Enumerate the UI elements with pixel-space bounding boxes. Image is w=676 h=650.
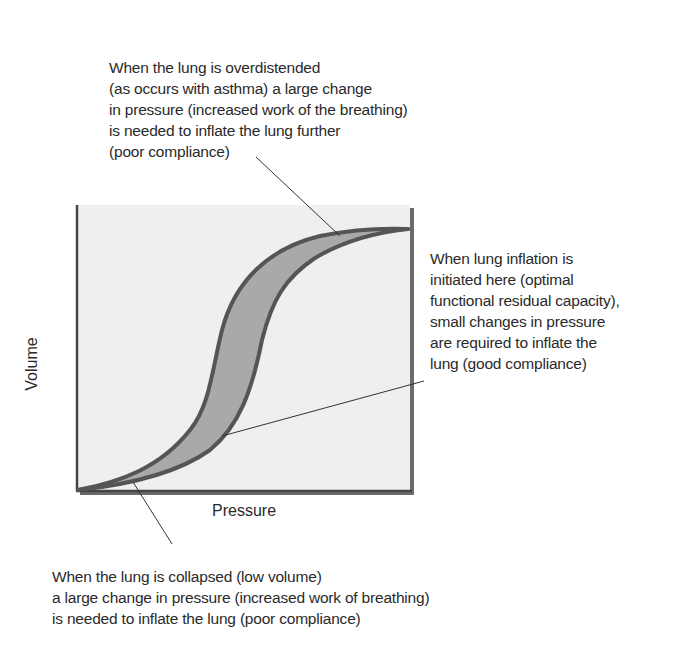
annotation-line: lung (good compliance)	[430, 353, 620, 374]
annotation-line: When lung inflation is	[430, 248, 620, 269]
annotation-overdistended: When the lung is overdistended (as occur…	[109, 57, 408, 162]
annotation-line: initiated here (optimal	[430, 269, 620, 290]
y-axis-label: Volume	[23, 337, 41, 390]
annotation-line: When the lung is collapsed (low volume)	[52, 566, 429, 587]
annotation-optimal-frc: When lung inflation is initiated here (o…	[430, 248, 620, 374]
annotation-line: a large change in pressure (increased wo…	[52, 587, 429, 608]
annotation-line: small changes in pressure	[430, 311, 620, 332]
annotation-line: When the lung is overdistended	[109, 57, 408, 78]
x-axis-label: Pressure	[212, 502, 276, 520]
annotation-line: is needed to inflate the lung further	[109, 120, 408, 141]
annotation-line: is needed to inflate the lung (poor comp…	[52, 608, 429, 629]
annotation-line: (as occurs with asthma) a large change	[109, 78, 408, 99]
annotation-line: (poor compliance)	[109, 141, 408, 162]
annotation-line: functional residual capacity),	[430, 290, 620, 311]
annotation-collapsed: When the lung is collapsed (low volume) …	[52, 566, 429, 629]
annotation-line: in pressure (increased work of the breat…	[109, 99, 408, 120]
annotation-line: are required to inflate the	[430, 332, 620, 353]
